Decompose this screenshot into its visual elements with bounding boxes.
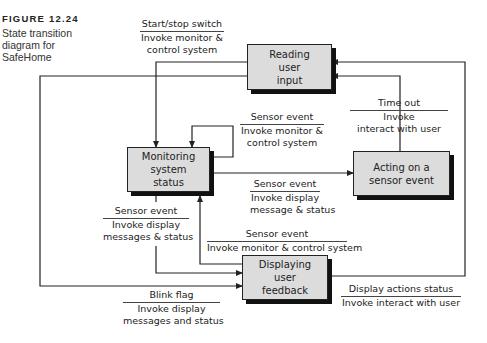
transition-label-blink-flag: Blink flag Invoke display messages and s… (123, 289, 220, 327)
transition-label-display-actions: Display actions status Invoke interact w… (341, 283, 461, 309)
state-displaying-user-feedback: Displaying user feedback (242, 255, 328, 300)
transition-label-time-out: Time out Invoke interact with user (350, 97, 448, 135)
state-acting-on-sensor-event: Acting on a sensor event (353, 151, 450, 196)
transition-label-monitor-to-display: Sensor event Invoke display messages & s… (103, 205, 189, 243)
transition-label-monitor-to-acting: Sensor event Invoke display message & st… (250, 178, 320, 216)
state-monitoring-system-status: Monitoring system status (127, 147, 210, 192)
transition-label-start-stop: Start/stop switch Invoke monitor & contr… (140, 18, 224, 56)
state-reading-user-input: Reading user input (247, 44, 332, 90)
transition-label-display-to-monitor: Sensor event Invoke monitor & control sy… (207, 228, 347, 254)
transition-label-monitor-self: Sensor event Invoke monitor & control sy… (240, 111, 324, 149)
